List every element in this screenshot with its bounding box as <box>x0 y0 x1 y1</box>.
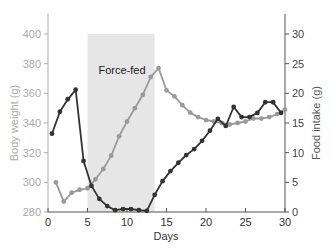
force-fed-shaded-region <box>88 34 155 212</box>
data-point-marker <box>200 138 205 143</box>
series-line <box>52 90 281 211</box>
data-point-marker <box>73 87 78 92</box>
data-point-marker <box>192 147 197 152</box>
x-tick-label: 20 <box>200 216 212 228</box>
data-point-marker <box>89 183 94 188</box>
data-point-marker <box>231 105 236 110</box>
data-point-marker <box>180 103 185 108</box>
x-tick-label: 10 <box>121 216 133 228</box>
left-y-tick-label: 400 <box>23 28 41 40</box>
data-point-marker <box>267 115 272 120</box>
left-y-tick-label: 320 <box>23 147 41 159</box>
x-tick-label: 0 <box>45 216 51 228</box>
data-point-marker <box>215 116 220 121</box>
data-point-marker <box>121 207 126 212</box>
data-point-marker <box>81 159 86 164</box>
data-point-marker <box>279 111 284 116</box>
data-point-marker <box>57 109 62 114</box>
x-tick-label: 5 <box>84 216 90 228</box>
right-y-tick-label: 25 <box>292 58 304 70</box>
data-point-marker <box>204 118 209 123</box>
data-point-marker <box>188 110 193 115</box>
x-tick-label: 15 <box>160 216 172 228</box>
data-point-marker <box>105 204 110 209</box>
data-point-marker <box>140 92 145 97</box>
data-point-marker <box>259 116 264 121</box>
data-point-marker <box>54 180 59 185</box>
right-y-tick-label: 20 <box>292 87 304 99</box>
data-point-marker <box>117 134 122 139</box>
series <box>50 66 288 213</box>
right-y-tick-label: 10 <box>292 147 304 159</box>
data-point-marker <box>196 115 201 120</box>
data-point-marker <box>93 177 98 182</box>
data-point-marker <box>164 88 169 93</box>
data-point-marker <box>243 119 248 124</box>
data-point-marker <box>263 100 268 105</box>
left-y-tick-label: 340 <box>23 117 41 129</box>
force-fed-label: Force-fed <box>98 64 145 76</box>
data-point-marker <box>133 106 138 111</box>
data-point-marker <box>113 208 118 213</box>
data-point-marker <box>184 153 189 158</box>
right-y-axis-title: Food intake (g) <box>310 86 322 160</box>
data-point-marker <box>223 124 228 129</box>
data-point-marker <box>172 94 177 99</box>
data-point-marker <box>283 107 288 112</box>
data-point-marker <box>65 97 70 102</box>
data-point-marker <box>109 153 114 158</box>
data-point-marker <box>148 75 153 80</box>
left-y-tick-label: 360 <box>23 87 41 99</box>
right-y-tick-label: 5 <box>292 176 298 188</box>
data-point-marker <box>136 208 141 213</box>
data-point-marker <box>271 100 276 105</box>
right-y-tick-label: 15 <box>292 117 304 129</box>
data-point-marker <box>129 207 134 212</box>
x-tick-label: 25 <box>239 216 251 228</box>
data-point-marker <box>77 187 82 192</box>
data-point-marker <box>208 128 213 133</box>
x-tick-label: 30 <box>279 216 291 228</box>
left-y-tick-label: 380 <box>23 58 41 70</box>
data-point-marker <box>239 115 244 120</box>
data-point-marker <box>160 179 165 184</box>
data-point-marker <box>101 167 106 172</box>
shaded-rect <box>88 34 155 212</box>
data-point-marker <box>168 169 173 174</box>
dual-axis-line-chart: 2803003203403603804000510152025300510152… <box>0 0 332 251</box>
data-point-marker <box>144 208 149 213</box>
data-point-marker <box>125 119 130 124</box>
left-y-tick-label: 280 <box>23 206 41 218</box>
data-point-marker <box>69 190 74 195</box>
right-y-tick-label: 30 <box>292 28 304 40</box>
data-point-marker <box>61 199 66 204</box>
left-y-tick-label: 300 <box>23 176 41 188</box>
data-point-marker <box>235 121 240 126</box>
axes: 2803003203403603804000510152025300510152… <box>23 14 305 228</box>
x-axis-title: Days <box>153 230 179 242</box>
data-point-marker <box>156 66 161 71</box>
left-y-axis-title: Body weight (g) <box>8 85 20 161</box>
data-point-marker <box>176 160 181 165</box>
data-point-marker <box>247 115 252 120</box>
right-y-tick-label: 0 <box>292 206 298 218</box>
data-point-marker <box>152 192 157 197</box>
data-point-marker <box>255 111 260 116</box>
data-point-marker <box>97 197 102 202</box>
data-point-marker <box>50 131 55 136</box>
food-intake-series <box>50 87 284 213</box>
